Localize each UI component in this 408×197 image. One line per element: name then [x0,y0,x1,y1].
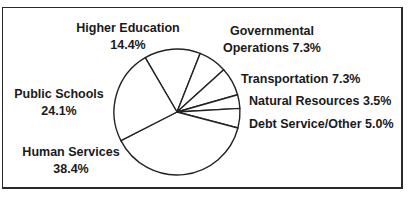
label-public-schools-name: Public Schools [8,86,110,103]
label-transportation: Transportation 7.3% [241,71,360,88]
label-public-schools: Public Schools 24.1% [8,86,110,120]
label-transportation-text: Transportation 7.3% [241,71,360,88]
label-human-services: Human Services 38.4% [16,144,126,178]
label-higher-education-name: Higher Education [76,20,180,37]
label-debt-service-text: Debt Service/Other 5.0% [249,116,394,133]
label-governmental-operations-name: Governmental [216,23,328,40]
label-human-services-name: Human Services [16,144,126,161]
label-public-schools-value: 24.1% [8,103,110,120]
label-higher-education-value: 14.4% [76,37,180,54]
label-higher-education: Higher Education 14.4% [76,20,180,54]
label-natural-resources-text: Natural Resources 3.5% [249,93,391,110]
label-human-services-value: 38.4% [16,161,126,178]
pie-slices [114,49,240,175]
label-governmental-operations: Governmental Operations 7.3% [216,23,328,57]
label-natural-resources: Natural Resources 3.5% [249,93,391,110]
label-governmental-operations-value: Operations 7.3% [216,40,328,57]
label-debt-service: Debt Service/Other 5.0% [249,116,394,133]
